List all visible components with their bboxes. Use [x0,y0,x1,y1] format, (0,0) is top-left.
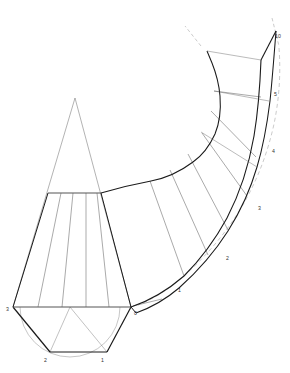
vertex-label-2-bottom: 2 [44,357,47,363]
vertex-label-3-left: 3 [6,306,9,312]
vertex-label-arc-3: 3 [258,205,261,211]
drawing-canvas: 3 2 1 0 1 2 3 4 5 10 [0,0,290,373]
vertex-label-arc-4: 4 [272,148,275,154]
vertex-label-arc-2: 2 [226,255,229,261]
canvas-background [0,0,290,373]
vertex-label-arc-5: 5 [274,91,277,97]
vertex-label-arc-10: 10 [275,33,281,39]
vertex-label-0-origin: 0 [134,310,137,316]
pattern-development-svg: 3 2 1 0 1 2 3 4 5 10 [0,0,290,373]
vertex-label-1-bottom: 1 [101,357,104,363]
vertex-label-arc-1: 1 [178,287,181,293]
